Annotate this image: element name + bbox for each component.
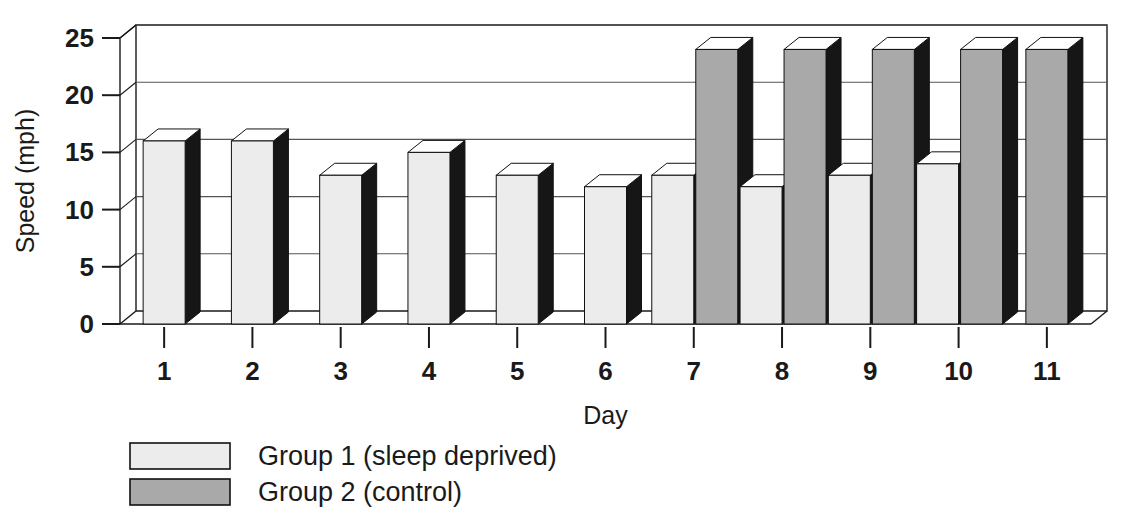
- chart-canvas: 0510152025Speed (mph) 1234567891011Day G…: [0, 0, 1141, 513]
- bar-side-face: [362, 163, 377, 324]
- legend-swatch: [130, 479, 230, 505]
- x-tick-label: 2: [245, 356, 259, 386]
- bar-front-face: [320, 175, 362, 324]
- bar-side-face: [538, 163, 553, 324]
- bar-front-face: [917, 164, 959, 324]
- bar-side-face: [450, 140, 465, 324]
- bar-side-face: [627, 175, 642, 324]
- plot-left-wall: [120, 25, 136, 324]
- gridline-connector: [120, 82, 136, 95]
- chart-legend: Group 1 (sleep deprived)Group 2 (control…: [130, 441, 557, 507]
- legend-swatch: [130, 443, 230, 469]
- bar-front-face: [408, 152, 450, 324]
- bar-front-face: [143, 141, 185, 324]
- bar-front-face: [872, 49, 914, 324]
- y-tick-label: 15: [65, 137, 94, 167]
- bar-side-face: [185, 129, 200, 324]
- x-tick-label: 6: [598, 356, 612, 386]
- bars-group: [143, 37, 1083, 324]
- bar-front-face: [652, 175, 694, 324]
- x-tick-label: 10: [944, 356, 973, 386]
- plot-floor-right-edge: [1091, 311, 1107, 324]
- bar-3d: [408, 140, 465, 324]
- y-tick-label: 20: [65, 80, 94, 110]
- bar-3d: [585, 175, 642, 324]
- x-tick-label: 7: [687, 356, 701, 386]
- bar-side-face: [1068, 37, 1083, 324]
- x-axis-title: Day: [583, 401, 628, 429]
- x-tick-label: 9: [863, 356, 877, 386]
- legend-label: Group 1 (sleep deprived): [258, 441, 557, 471]
- y-axis-title: Speed (mph): [11, 109, 39, 254]
- gridline-connector: [120, 254, 136, 267]
- y-tick-label: 25: [65, 23, 94, 53]
- x-tick-label: 4: [422, 356, 437, 386]
- bar-front-face: [1026, 49, 1068, 324]
- legend-label: Group 2 (control): [258, 477, 462, 507]
- bar-front-face: [740, 187, 782, 324]
- bar-side-face: [273, 129, 288, 324]
- y-tick-label: 10: [65, 195, 94, 225]
- bar-3d: [961, 37, 1018, 324]
- bar-front-face: [585, 187, 627, 324]
- x-tick-label: 8: [775, 356, 789, 386]
- x-tick-label: 5: [510, 356, 524, 386]
- y-axis: 0510152025Speed (mph): [11, 23, 120, 339]
- gridline-connector: [120, 25, 136, 38]
- bar-front-face: [696, 49, 738, 324]
- bar-chart: 0510152025Speed (mph) 1234567891011Day G…: [0, 0, 1141, 513]
- bar-front-face: [961, 49, 1003, 324]
- x-axis: 1234567891011Day: [157, 327, 1061, 429]
- bar-3d: [496, 163, 553, 324]
- bar-side-face: [1003, 37, 1018, 324]
- x-tick-label: 3: [333, 356, 347, 386]
- y-tick-label: 0: [80, 309, 94, 339]
- bar-front-face: [231, 141, 273, 324]
- gridline-connector: [120, 139, 136, 152]
- bar-3d: [143, 129, 200, 324]
- y-tick-label: 5: [80, 252, 94, 282]
- bar-3d: [231, 129, 288, 324]
- x-tick-label: 1: [157, 356, 171, 386]
- bar-3d: [1026, 37, 1083, 324]
- bar-3d: [320, 163, 377, 324]
- x-tick-label: 11: [1033, 356, 1061, 386]
- bar-front-face: [828, 175, 870, 324]
- gridline-connector: [120, 197, 136, 210]
- bar-front-face: [784, 49, 826, 324]
- bar-front-face: [496, 175, 538, 324]
